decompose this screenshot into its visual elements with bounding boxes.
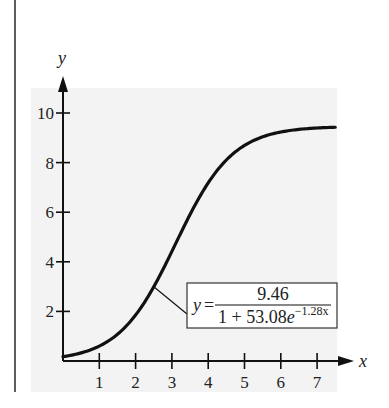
- x-tick-label: 5: [240, 373, 249, 392]
- y-tick-label: 8: [46, 154, 55, 173]
- formula-annotation-box: y= 9.46 1 + 53.08e−1.28x: [187, 283, 337, 328]
- x-tick-label: 7: [313, 373, 322, 392]
- x-tick-label: 4: [204, 373, 213, 392]
- x-tick-label: 2: [131, 373, 140, 392]
- formula-denominator-base: 1 + 53.08: [218, 307, 287, 327]
- formula-denominator-e: e: [287, 307, 295, 327]
- x-tick-label: 1: [95, 373, 104, 392]
- logistic-chart-figure: y 246810 x 1234567 y= 9.46 1 + 53.08e−1.…: [0, 0, 389, 408]
- x-axis-label: x: [358, 351, 367, 371]
- formula-lhs: y: [191, 295, 201, 315]
- formula-numerator: 9.46: [257, 284, 289, 304]
- x-tick-label: 3: [168, 373, 177, 392]
- y-axis-arrow-icon: [58, 76, 68, 92]
- y-axis-label: y: [56, 48, 66, 68]
- x-axis-arrow-icon: [338, 356, 354, 366]
- y-tick-label: 4: [46, 253, 55, 272]
- y-tick-label: 6: [46, 203, 55, 222]
- y-tick-label: 2: [46, 302, 55, 321]
- x-tick-label: 6: [277, 373, 286, 392]
- y-tick-label: 10: [37, 104, 54, 123]
- plot-background-panel: [31, 88, 337, 392]
- formula-denominator-exponent: −1.28x: [295, 304, 329, 318]
